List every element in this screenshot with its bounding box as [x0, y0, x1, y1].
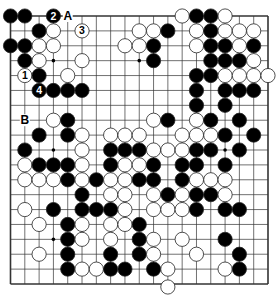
- go-board-diagram: 2314 AB: [0, 0, 280, 298]
- white-stone: [118, 173, 132, 187]
- white-stone: [218, 262, 232, 276]
- white-stone: [232, 24, 246, 38]
- white-stone: [146, 188, 160, 202]
- white-stone: [104, 173, 118, 187]
- white-stone: [32, 54, 46, 68]
- black-stone: [189, 143, 203, 157]
- black-stone: [218, 128, 232, 142]
- white-stone: [104, 232, 118, 246]
- black-stone: [204, 39, 218, 53]
- white-stone: [32, 173, 46, 187]
- black-stone: [218, 39, 232, 53]
- black-stone: [218, 202, 232, 216]
- black-stone: [204, 9, 218, 23]
- white-stone: [161, 143, 175, 157]
- white-stone: [118, 158, 132, 172]
- black-stone: [189, 68, 203, 82]
- black-stone: [218, 158, 232, 172]
- black-stone: [61, 247, 75, 261]
- black-stone: [104, 262, 118, 276]
- black-stone: [132, 143, 146, 157]
- black-stone: [104, 158, 118, 172]
- black-stone: [46, 158, 60, 172]
- white-stone: [175, 128, 189, 142]
- white-stone: [161, 202, 175, 216]
- black-stone: [32, 24, 46, 38]
- black-stone: [204, 24, 218, 38]
- letter-marker: B: [20, 113, 29, 127]
- white-stone: [61, 68, 75, 82]
- white-stone: [146, 202, 160, 216]
- stones-layer: 2314: [3, 9, 275, 294]
- black-stone: [18, 54, 32, 68]
- star-point: [137, 59, 141, 63]
- white-stone: [175, 188, 189, 202]
- white-stone: [218, 68, 232, 82]
- black-stone: [204, 188, 218, 202]
- black-stone: [204, 68, 218, 82]
- black-stone: [104, 202, 118, 216]
- black-stone: [32, 68, 46, 82]
- white-stone: [132, 128, 146, 142]
- white-stone: [146, 232, 160, 246]
- black-stone: [247, 128, 261, 142]
- black-stone: [61, 128, 75, 142]
- white-stone: 1: [18, 68, 32, 82]
- black-stone: [146, 158, 160, 172]
- white-stone: [204, 173, 218, 187]
- black-stone: [204, 113, 218, 127]
- white-stone: [118, 128, 132, 142]
- white-stone: [75, 158, 89, 172]
- black-stone: [146, 39, 160, 53]
- white-stone: [175, 202, 189, 216]
- letter-marker: A: [63, 9, 72, 23]
- black-stone: [46, 202, 60, 216]
- white-stone: [218, 9, 232, 23]
- black-stone: 2: [46, 9, 60, 23]
- white-stone: [46, 24, 60, 38]
- white-stone: [218, 188, 232, 202]
- black-stone: [232, 54, 246, 68]
- star-point: [52, 148, 56, 152]
- white-stone: [75, 262, 89, 276]
- white-stone: [232, 68, 246, 82]
- white-stone: [75, 173, 89, 187]
- white-stone: [89, 262, 103, 276]
- move-number: 4: [36, 84, 42, 96]
- black-stone: [18, 39, 32, 53]
- black-stone: [218, 98, 232, 112]
- white-stone: [32, 217, 46, 231]
- black-stone: [18, 143, 32, 157]
- white-stone: [132, 39, 146, 53]
- black-stone: [189, 158, 203, 172]
- white-stone: [18, 173, 32, 187]
- white-stone: [189, 39, 203, 53]
- black-stone: [104, 143, 118, 157]
- white-stone: [189, 128, 203, 142]
- black-stone: [232, 202, 246, 216]
- white-stone: [146, 143, 160, 157]
- black-stone: [61, 232, 75, 246]
- black-stone: [61, 83, 75, 97]
- white-stone: [218, 173, 232, 187]
- black-stone: [118, 143, 132, 157]
- white-stone: [161, 280, 175, 294]
- black-stone: [146, 262, 160, 276]
- move-number: 1: [22, 69, 28, 81]
- star-point: [52, 238, 56, 242]
- black-stone: [146, 54, 160, 68]
- black-stone: 4: [32, 83, 46, 97]
- white-stone: [204, 128, 218, 142]
- white-stone: [46, 39, 60, 53]
- black-stone: [161, 24, 175, 38]
- black-stone: [61, 262, 75, 276]
- black-stone: [175, 173, 189, 187]
- black-stone: [3, 39, 17, 53]
- move-number: 3: [79, 24, 85, 36]
- white-stone: [18, 202, 32, 216]
- black-stone: [89, 202, 103, 216]
- white-stone: [118, 39, 132, 53]
- white-stone: [132, 24, 146, 38]
- white-stone: [46, 113, 60, 127]
- white-stone: [189, 173, 203, 187]
